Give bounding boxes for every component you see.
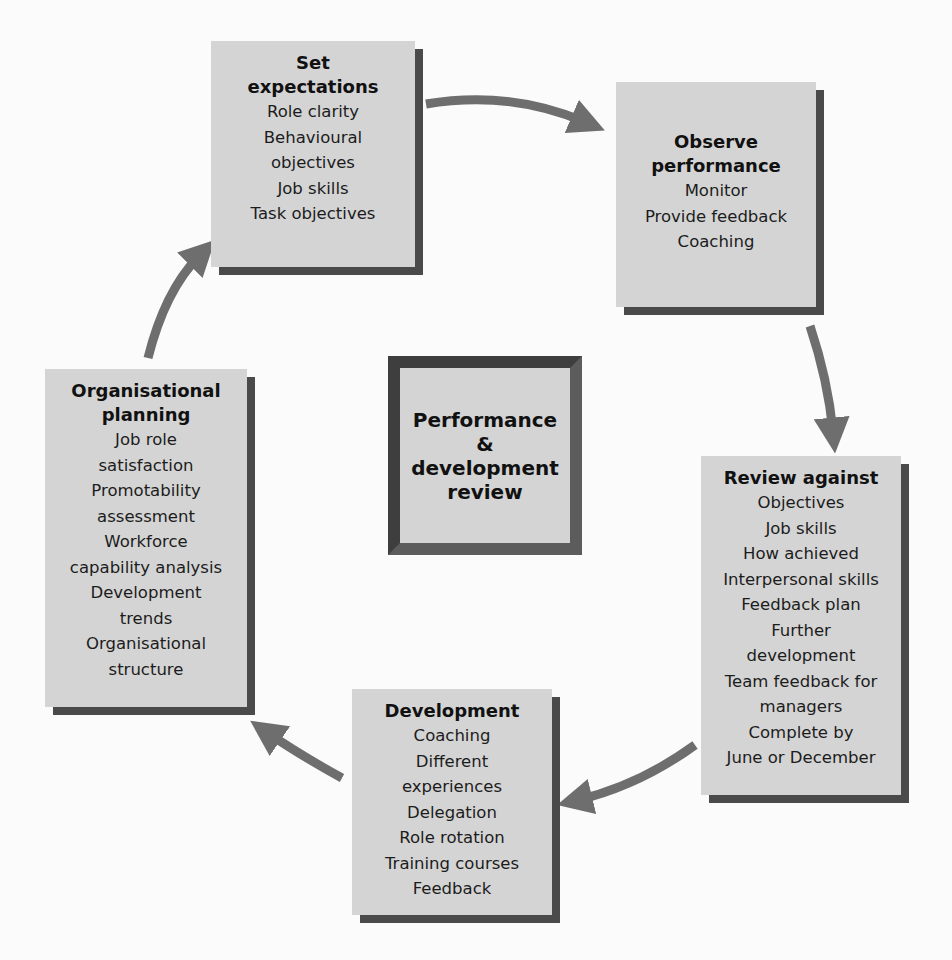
stage-item: experiences xyxy=(352,774,552,800)
stage-item: Objectives xyxy=(701,490,901,516)
stage-development: Development Coaching Different experienc… xyxy=(352,689,552,915)
stage-title: planning xyxy=(45,403,247,427)
stage-item: Development xyxy=(45,580,247,606)
stage-item: Role rotation xyxy=(352,825,552,851)
arrow-set-to-observe xyxy=(426,100,585,122)
stage-item: Delegation xyxy=(352,800,552,826)
stage-item: Coaching xyxy=(352,723,552,749)
center-title: & xyxy=(411,432,559,456)
arrow-observe-to-review xyxy=(810,326,833,432)
stage-title: Development xyxy=(352,699,552,723)
stage-item: capability analysis xyxy=(45,555,247,581)
stage-item: Job skills xyxy=(701,516,901,542)
stage-observe-performance: Observe performance Monitor Provide feed… xyxy=(616,82,816,307)
stage-item: Different xyxy=(352,749,552,775)
center-title: review xyxy=(411,480,559,504)
stage-item: June or December xyxy=(701,745,901,771)
stage-item: development xyxy=(701,643,901,669)
stage-title: Organisational xyxy=(45,379,247,403)
stage-item: Monitor xyxy=(616,178,816,204)
stage-item: Organisational xyxy=(45,631,247,657)
stage-item: assessment xyxy=(45,504,247,530)
arrow-planning-to-set xyxy=(148,255,200,358)
stage-title: performance xyxy=(616,154,816,178)
stage-title: Set xyxy=(211,51,415,75)
stage-item: satisfaction xyxy=(45,453,247,479)
stage-item: Further xyxy=(701,618,901,644)
stage-item: objectives xyxy=(211,150,415,176)
stage-item: trends xyxy=(45,606,247,632)
stage-item: Role clarity xyxy=(211,99,415,125)
center-title: development xyxy=(411,456,559,480)
stage-organisational-planning: Organisational planning Job role satisfa… xyxy=(45,369,247,707)
stage-item: Provide feedback xyxy=(616,204,816,230)
center-performance-review: Performance & development review xyxy=(388,356,582,555)
stage-item: Training courses xyxy=(352,851,552,877)
stage-item: Promotability xyxy=(45,478,247,504)
center-title: Performance xyxy=(411,408,559,432)
stage-item: Coaching xyxy=(616,229,816,255)
stage-item: How achieved xyxy=(701,541,901,567)
stage-set-expectations: Set expectations Role clarity Behavioura… xyxy=(211,41,415,267)
stage-item: Complete by xyxy=(701,720,901,746)
stage-title: Review against xyxy=(701,466,901,490)
stage-item: Team feedback for xyxy=(701,669,901,695)
stage-item: managers xyxy=(701,694,901,720)
stage-title: Observe xyxy=(616,130,816,154)
arrow-development-to-planning xyxy=(268,733,342,778)
stage-item: Behavioural xyxy=(211,125,415,151)
stage-item: Task objectives xyxy=(211,201,415,227)
stage-item: Interpersonal skills xyxy=(701,567,901,593)
stage-item: Feedback xyxy=(352,876,552,902)
stage-item: Feedback plan xyxy=(701,592,901,618)
stage-review-against: Review against Objectives Job skills How… xyxy=(701,456,901,795)
stage-title: expectations xyxy=(211,75,415,99)
stage-item: Workforce xyxy=(45,529,247,555)
arrow-review-to-development xyxy=(578,745,695,800)
stage-item: Job role xyxy=(45,427,247,453)
stage-item: structure xyxy=(45,657,247,683)
stage-item: Job skills xyxy=(211,176,415,202)
